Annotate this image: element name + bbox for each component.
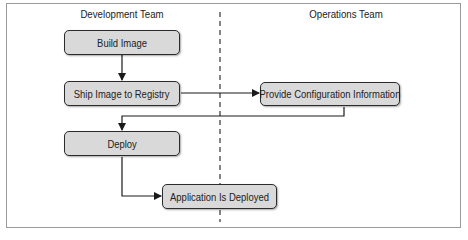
node-application-is-deployed: Application Is Deployed <box>162 184 277 209</box>
node-build-image: Build Image <box>64 30 180 55</box>
node-app-deployed-label: Application Is Deployed <box>170 191 269 203</box>
node-provide-configuration-information: Provide Configuration Information <box>260 82 400 106</box>
edge-deploy-to-deployed <box>122 157 161 196</box>
node-ship-image-to-registry: Ship Image to Registry <box>64 81 180 106</box>
node-ship-image-label: Ship Image to Registry <box>74 88 170 100</box>
node-provide-config-label: Provide Configuration Information <box>260 88 401 100</box>
node-build-image-label: Build Image <box>97 37 147 49</box>
edge-config-to-deploy <box>122 107 344 130</box>
node-deploy-label: Deploy <box>107 138 136 150</box>
node-deploy: Deploy <box>64 131 180 156</box>
